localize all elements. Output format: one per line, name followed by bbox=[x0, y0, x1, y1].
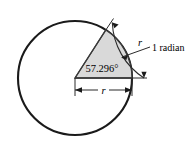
arc-length-label: r bbox=[138, 37, 143, 48]
arc-dimension-arrow-start bbox=[112, 23, 118, 29]
radian-label: 1 radian bbox=[152, 42, 185, 53]
angle-label: 57.296° bbox=[85, 63, 118, 74]
diagram-canvas: r 1 radian 57.296° r bbox=[0, 0, 196, 156]
radian-diagram: r 1 radian 57.296° r bbox=[0, 0, 196, 156]
radius-dimension-arrow-left bbox=[75, 87, 82, 93]
